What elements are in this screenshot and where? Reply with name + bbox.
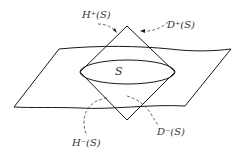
leader-future-domain [142,22,168,31]
label-future-horizon: H⁺(S) [81,9,111,20]
arrow-future-horizon-icon [113,28,117,33]
label-past-domain: D⁻(S) [156,126,185,137]
label-surface-s: S [115,65,123,78]
diagram-svg: H⁺(S) D⁺(S) S H⁻(S) D⁻(S) [0,0,243,156]
leader-future-horizon [98,24,116,32]
surface-s-ellipse [80,60,175,84]
diagram-canvas: H⁺(S) D⁺(S) S H⁻(S) D⁻(S) [0,0,243,156]
label-future-domain: D⁺(S) [166,19,195,30]
arrow-future-domain-icon [140,29,145,33]
label-past-horizon: H⁻(S) [71,137,101,148]
leader-past-domain [127,96,158,125]
leader-past-horizon [84,98,107,135]
